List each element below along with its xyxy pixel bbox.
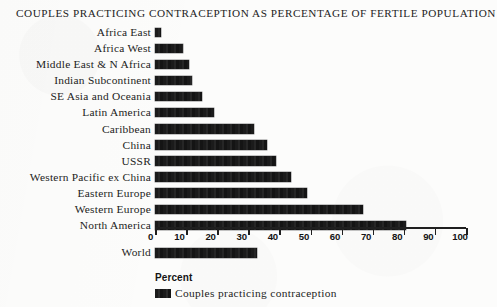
bar-western-europe	[155, 205, 363, 215]
bar-se-asia-and-oceania	[155, 92, 202, 102]
bar-row: Africa East	[0, 26, 497, 42]
bar-row-label: Africa East	[0, 26, 151, 39]
legend-label: Couples practicing contraception	[175, 287, 337, 299]
bar-world	[155, 248, 257, 259]
bar-row-label: Caribbean	[0, 123, 151, 136]
bar-row-label: Western Pacific ex China	[0, 171, 151, 184]
bar-row-label: USSR	[0, 155, 151, 168]
bar-row-label: Indian Subcontinent	[0, 74, 151, 87]
bar-row-label: SE Asia and Oceania	[0, 90, 151, 103]
bar-row: USSR	[0, 155, 497, 171]
legend-swatch-icon	[155, 289, 171, 298]
bar-row-label: Latin America	[0, 106, 151, 119]
bar-row: Western Pacific ex China	[0, 171, 497, 187]
bar-row-label: Western Europe	[0, 203, 151, 216]
bar-row-label-world: World	[0, 246, 151, 259]
bar-row: Latin America	[0, 106, 497, 122]
bar-row: China	[0, 139, 497, 155]
chart-title: COUPLES PRACTICING CONTRACEPTION AS PERC…	[16, 7, 497, 19]
bar-row-label: China	[0, 139, 151, 152]
chart-legend: Couples practicing contraception	[155, 287, 337, 299]
bar-africa-east	[155, 28, 161, 38]
x-axis-title: Percent	[155, 272, 192, 283]
bar-ussr	[155, 156, 276, 166]
chart-page: COUPLES PRACTICING CONTRACEPTION AS PERC…	[0, 0, 497, 307]
row-spacer	[0, 235, 497, 246]
bar-indian-subcontinent	[155, 76, 192, 86]
bar-china	[155, 140, 267, 150]
bar-row-label: Africa West	[0, 42, 151, 55]
bar-middle-east-n-africa	[155, 60, 189, 70]
bar-row: SE Asia and Oceania	[0, 90, 497, 106]
bar-row-label: North America	[0, 219, 151, 232]
bar-row-label: Middle East & N Africa	[0, 58, 151, 71]
bar-row: Indian Subcontinent	[0, 74, 497, 90]
bar-north-america	[155, 221, 406, 231]
bar-row: Middle East & N Africa	[0, 58, 497, 74]
bar-caribbean	[155, 124, 254, 134]
plot-area: Africa East Africa West Middle East & N …	[0, 26, 497, 248]
bar-western-pacific-ex-china	[155, 172, 291, 182]
bar-row-label: Eastern Europe	[0, 187, 151, 200]
bar-row: Western Europe	[0, 203, 497, 219]
bar-row-world: World	[0, 246, 497, 262]
bar-africa-west	[155, 44, 183, 54]
bar-eastern-europe	[155, 188, 307, 198]
bar-row: Eastern Europe	[0, 187, 497, 203]
bar-row: North America	[0, 219, 497, 235]
bar-row: Caribbean	[0, 123, 497, 139]
bar-latin-america	[155, 108, 214, 118]
bar-row: Africa West	[0, 42, 497, 58]
